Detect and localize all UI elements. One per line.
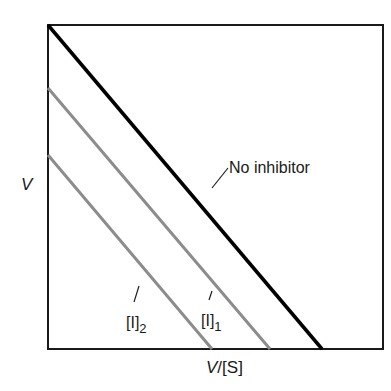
plot-frame — [48, 25, 383, 349]
leader-no-inhibitor — [212, 168, 228, 188]
y-axis-label: V — [21, 175, 34, 194]
line-inhibitor-1 — [48, 88, 270, 349]
x-axis-label: V/[S] — [206, 358, 243, 377]
label-inhibitor-2: [I]2 — [126, 314, 147, 336]
line-no-inhibitor — [48, 25, 322, 349]
label-no-inhibitor: No inhibitor — [229, 159, 311, 176]
leader-inhibitor-2 — [134, 286, 139, 302]
eadie-hofstee-plot: No inhibitor [I]1 [I]2 V V/[S] — [0, 0, 391, 391]
label-inhibitor-1: [I]1 — [201, 312, 222, 334]
leader-inhibitor-1 — [209, 291, 212, 300]
